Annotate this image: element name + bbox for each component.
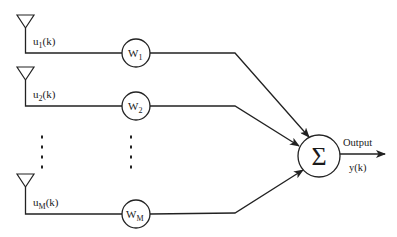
summing-junction: Σ <box>298 135 340 177</box>
input-branch-m: uM(k) WM <box>17 170 303 228</box>
ellipsis-dots <box>41 136 132 169</box>
output-signal-label: y(k) <box>349 162 367 174</box>
input-branch-2: u2(k) W2 <box>17 67 299 146</box>
antenna-icon <box>17 174 34 187</box>
output-label: Output <box>343 137 372 148</box>
input-label: u1(k) <box>33 35 56 50</box>
antenna-icon <box>17 15 34 28</box>
weighted-signal-wire <box>150 170 303 214</box>
sigma-icon: Σ <box>311 142 326 171</box>
input-label: u2(k) <box>33 88 56 103</box>
output: Output y(k) <box>340 137 385 174</box>
weighted-signal-wire <box>150 53 309 137</box>
adaptive-linear-combiner-diagram: u1(k) W1 u2(k) W2 uM(k) <box>0 0 397 237</box>
weighted-signal-wire <box>150 106 299 146</box>
input-branch-1: u1(k) W1 <box>17 15 309 137</box>
antenna-icon <box>17 67 34 80</box>
input-label: uM(k) <box>33 196 59 211</box>
